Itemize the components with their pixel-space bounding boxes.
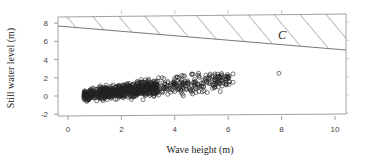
data-point xyxy=(141,98,145,102)
x-axis-title: Wave height (m) xyxy=(167,144,234,156)
y-tick-label: 4 xyxy=(44,56,49,65)
region-label-c: C xyxy=(278,28,287,42)
data-point xyxy=(180,73,184,77)
x-tick-label: 2 xyxy=(119,125,124,134)
hatched-region-c xyxy=(58,14,346,50)
scatter-chart: -202468 0246810 C Wave height (m) Still … xyxy=(0,0,367,162)
data-point xyxy=(231,72,235,76)
data-point xyxy=(166,92,170,96)
y-tick-label: 6 xyxy=(44,37,49,46)
y-tick-label: 8 xyxy=(44,19,49,28)
y-tick-label: 2 xyxy=(44,74,49,83)
data-point xyxy=(277,71,281,75)
y-tick-label: -2 xyxy=(41,110,49,119)
scatter-points xyxy=(82,71,281,103)
y-tick-label: 0 xyxy=(44,92,49,101)
x-tick-label: 6 xyxy=(226,125,231,134)
x-tick-label: 8 xyxy=(279,125,284,134)
y-axis-title: Still water level (m) xyxy=(5,28,17,108)
data-point xyxy=(218,90,222,94)
x-tick-label: 0 xyxy=(66,125,71,134)
x-tick-label: 10 xyxy=(331,125,340,134)
x-tick-label: 4 xyxy=(173,125,178,134)
